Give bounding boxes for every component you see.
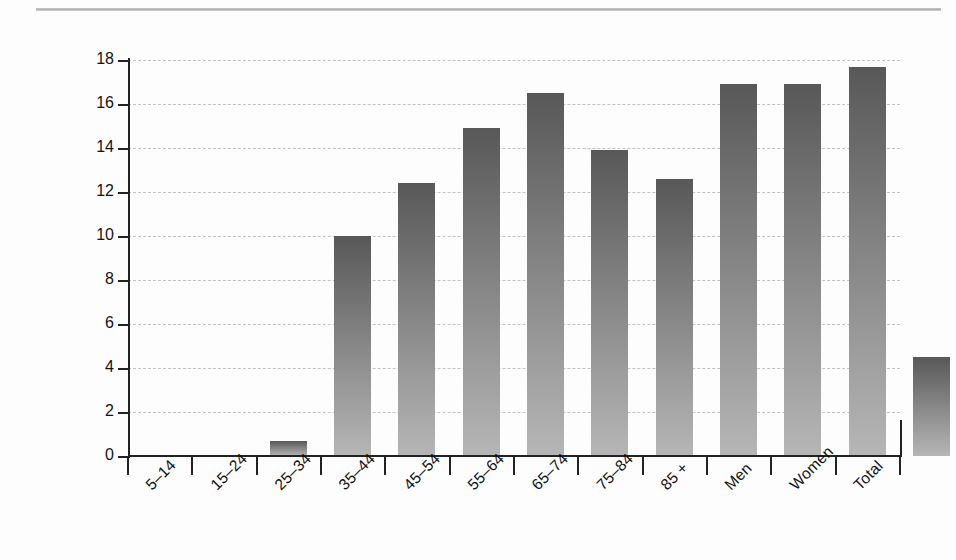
y-axis-tick-label: 8 — [84, 270, 114, 288]
x-axis-tick-mark — [191, 457, 193, 475]
y-axis-tick-mark — [118, 60, 130, 62]
y-axis-tick-mark — [118, 280, 130, 282]
bar — [398, 183, 435, 456]
bar — [784, 84, 821, 456]
x-axis-tick-mark — [899, 457, 901, 475]
x-axis-tick-mark — [770, 457, 772, 475]
bar — [720, 84, 757, 456]
plot-area — [128, 60, 900, 456]
y-axis-tick-mark — [118, 148, 130, 150]
y-axis-tick-mark — [118, 324, 130, 326]
bar — [334, 236, 371, 456]
x-axis-tick-mark — [835, 457, 837, 475]
page-top-rule — [36, 8, 941, 11]
bar — [527, 93, 564, 456]
x-axis-tick-mark — [513, 457, 515, 475]
y-axis-tick-label: 2 — [84, 402, 114, 420]
x-axis-tick-mark — [127, 457, 129, 475]
gridline — [128, 60, 900, 62]
x-axis-tick-mark — [256, 457, 258, 475]
x-axis-tick-label: Total — [850, 457, 887, 494]
bar — [849, 67, 886, 456]
x-axis-tick-mark — [320, 457, 322, 475]
y-axis-tick-mark — [118, 412, 130, 414]
y-axis-tick-label: 4 — [84, 358, 114, 376]
bar — [463, 128, 500, 456]
y-axis-tick-mark — [118, 368, 130, 370]
bar — [656, 179, 693, 456]
y-axis-tick-labels: 024681012141618 — [74, 60, 114, 456]
y-axis-line — [128, 58, 130, 458]
y-axis-tick-label: 12 — [84, 182, 114, 200]
bar — [591, 150, 628, 456]
x-axis-right-cap — [900, 420, 902, 457]
x-axis-tick-mark — [384, 457, 386, 475]
x-axis-tick-label: Men — [721, 459, 755, 493]
y-axis-tick-label: 10 — [84, 226, 114, 244]
y-axis-tick-label: 18 — [84, 50, 114, 68]
y-axis-tick-label: 0 — [84, 446, 114, 464]
x-axis-tick-label: 85 + — [657, 459, 692, 494]
y-axis-tick-label: 14 — [84, 138, 114, 156]
x-axis-tick-mark — [577, 457, 579, 475]
x-axis-tick-label: 5–14 — [142, 456, 180, 494]
bar — [913, 357, 950, 456]
x-axis-tick-mark — [706, 457, 708, 475]
y-axis-tick-mark — [118, 104, 130, 106]
y-axis-tick-label: 6 — [84, 314, 114, 332]
y-axis-tick-mark — [118, 192, 130, 194]
y-axis-tick-label: 16 — [84, 94, 114, 112]
chart-figure: Suicides per 100,000 population 02468101… — [0, 0, 956, 560]
x-axis-tick-mark — [642, 457, 644, 475]
y-axis-tick-mark — [118, 236, 130, 238]
x-axis-tick-mark — [449, 457, 451, 475]
